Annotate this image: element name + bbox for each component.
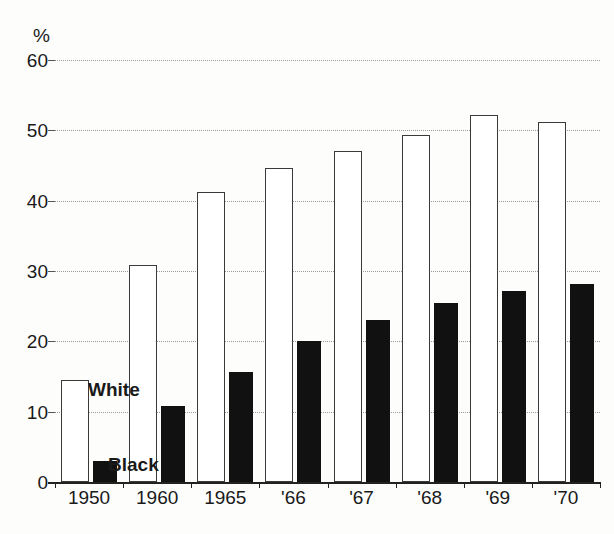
y-axis-tick xyxy=(48,60,55,61)
y-axis-tick xyxy=(48,341,55,342)
gridline xyxy=(55,201,600,202)
bar-white xyxy=(470,115,498,482)
y-axis-tick xyxy=(48,271,55,272)
y-axis-unit-label: % xyxy=(33,26,50,45)
x-axis-tick-label: 1960 xyxy=(136,488,178,507)
y-axis-tick xyxy=(48,412,55,413)
bar-black xyxy=(366,320,390,482)
bar-white xyxy=(129,265,157,482)
gridline xyxy=(55,60,600,61)
bar-black xyxy=(434,303,458,482)
x-axis-tick-label: 1965 xyxy=(204,488,246,507)
y-axis-tick-label: 30 xyxy=(8,262,48,281)
y-axis-tick-label: 50 xyxy=(8,121,48,140)
series-label-white: White xyxy=(88,380,140,399)
bar-white xyxy=(265,168,293,482)
series-label-black: Black xyxy=(108,455,159,474)
bar-white xyxy=(334,151,362,482)
y-axis-tick-label: 10 xyxy=(8,403,48,422)
y-axis-tick-label: 0 xyxy=(8,473,48,492)
bar-black xyxy=(297,341,321,482)
bar-white xyxy=(61,380,89,482)
y-axis-tick-label: 60 xyxy=(8,51,48,70)
bar-black xyxy=(229,372,253,482)
bar-white xyxy=(538,122,566,482)
y-axis-tick-label: 20 xyxy=(8,332,48,351)
y-axis-tick xyxy=(48,482,55,484)
y-axis-tick xyxy=(48,201,55,202)
x-axis-tick-label: '70 xyxy=(554,488,579,507)
gridline xyxy=(55,130,600,131)
x-axis-tick-label: '66 xyxy=(281,488,306,507)
x-axis-tick-label: '67 xyxy=(349,488,374,507)
x-axis-tick xyxy=(600,482,601,488)
y-axis-tick xyxy=(48,130,55,131)
y-axis-tick-label: 40 xyxy=(8,192,48,211)
x-axis-tick-labels: 195019601965'66'67'68'69'70 xyxy=(55,488,600,518)
bar-chart: % 0102030405060 195019601965'66'67'68'69… xyxy=(0,0,614,534)
bar-black xyxy=(502,291,526,482)
bar-black xyxy=(161,406,185,482)
x-axis-tick-label: '68 xyxy=(417,488,442,507)
plot-area xyxy=(55,60,600,482)
x-axis-tick-label: 1950 xyxy=(68,488,110,507)
x-axis-tick-label: '69 xyxy=(485,488,510,507)
bar-black xyxy=(570,284,594,482)
bar-white xyxy=(402,135,430,482)
bar-white xyxy=(197,192,225,482)
